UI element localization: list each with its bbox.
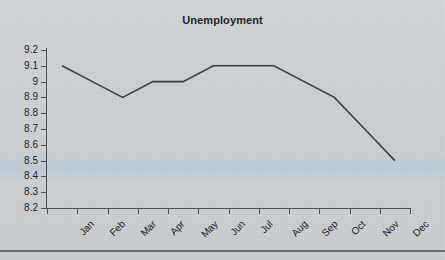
series-plot (0, 0, 445, 260)
scanned-chart-page: Unemployment 9.29.198.98.88.78.68.58.48.… (0, 0, 445, 260)
unemployment-line-chart: Unemployment 9.29.198.98.88.78.68.58.48.… (0, 0, 445, 260)
page-bottom-rule (0, 250, 445, 252)
unemployment-series-line (62, 66, 395, 161)
